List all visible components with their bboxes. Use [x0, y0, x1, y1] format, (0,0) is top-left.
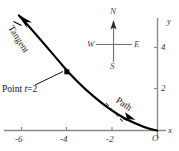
- compass-south-label: S: [110, 62, 115, 71]
- compass-rose-group: [96, 20, 132, 62]
- point-annotation-text: Point: [2, 84, 24, 94]
- compass-west-label: W: [87, 40, 95, 49]
- compass-north-label: N: [110, 7, 116, 16]
- axes-group: [4, 18, 166, 138]
- y-tick-label-4: 4: [161, 43, 166, 52]
- marked-point-group: [35, 69, 69, 85]
- x-tick-label-minus6: -6: [15, 135, 23, 144]
- marked-point-leader-line: [35, 72, 63, 86]
- x-axis-label: x: [168, 126, 172, 135]
- x-tick-label-minus2: -2: [106, 135, 114, 144]
- point-annotation-value: =2: [27, 84, 37, 94]
- compass-east-label: E: [134, 40, 140, 49]
- marked-point-dot: [64, 69, 69, 74]
- y-tick-label-2: 2: [161, 84, 166, 93]
- x-tick-label-minus4: -4: [60, 135, 68, 144]
- figure-canvas: [0, 0, 179, 151]
- path-curve: [19, 16, 157, 131]
- parametric-path-figure: -6 -4 -2 2 4 y x O N S W E Tangent Path …: [0, 0, 179, 151]
- y-axis-label: y: [167, 17, 171, 26]
- path-curve-group: [19, 16, 157, 131]
- origin-label: O: [152, 134, 159, 143]
- point-annotation: Point t=2: [2, 85, 37, 95]
